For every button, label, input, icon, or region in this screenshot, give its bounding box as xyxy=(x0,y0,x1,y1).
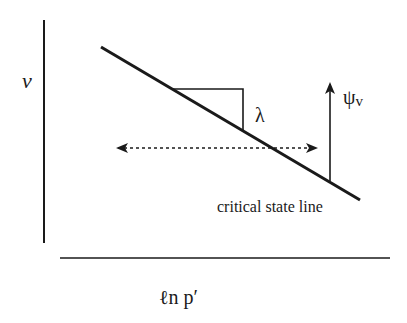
slope-label: λ xyxy=(255,104,265,127)
x-axis-label: ℓn p′ xyxy=(159,286,198,309)
state-parameter-label: ψv xyxy=(343,86,363,110)
critical-state-line xyxy=(101,47,360,200)
critical-state-diagram xyxy=(0,0,407,323)
critical-state-line-label: critical state line xyxy=(217,198,323,216)
state-parameter-symbol: ψ xyxy=(343,86,356,108)
state-parameter-subscript: v xyxy=(356,93,364,109)
y-axis-label: v xyxy=(22,68,32,94)
